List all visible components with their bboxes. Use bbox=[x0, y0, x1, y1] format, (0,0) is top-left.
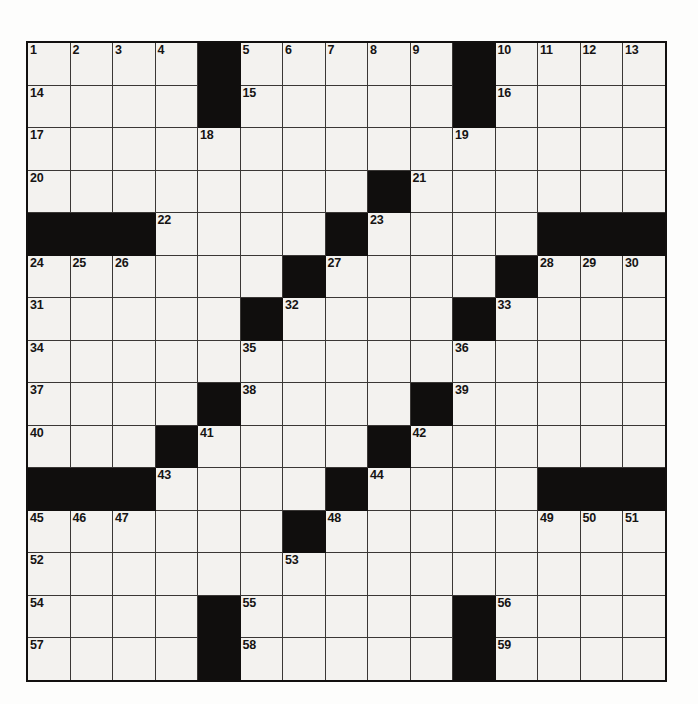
crossword-cell[interactable] bbox=[623, 170, 666, 213]
crossword-cell[interactable]: 10 bbox=[495, 42, 538, 85]
crossword-cell[interactable]: 38 bbox=[240, 383, 283, 426]
crossword-cell[interactable] bbox=[623, 425, 666, 468]
crossword-cell[interactable] bbox=[113, 553, 156, 596]
crossword-cell[interactable] bbox=[283, 213, 326, 256]
crossword-cell[interactable]: 57 bbox=[27, 638, 70, 681]
crossword-cell[interactable]: 31 bbox=[27, 298, 70, 341]
crossword-cell[interactable] bbox=[198, 468, 241, 511]
crossword-cell[interactable] bbox=[538, 595, 581, 638]
crossword-cell[interactable] bbox=[283, 595, 326, 638]
crossword-cell[interactable] bbox=[368, 85, 411, 128]
crossword-cell[interactable] bbox=[538, 383, 581, 426]
crossword-cell[interactable] bbox=[113, 128, 156, 171]
crossword-cell[interactable] bbox=[325, 298, 368, 341]
crossword-cell[interactable] bbox=[155, 553, 198, 596]
crossword-cell[interactable] bbox=[155, 510, 198, 553]
crossword-cell[interactable] bbox=[283, 468, 326, 511]
crossword-cell[interactable] bbox=[368, 298, 411, 341]
crossword-cell[interactable]: 23 bbox=[368, 213, 411, 256]
crossword-cell[interactable]: 58 bbox=[240, 638, 283, 681]
crossword-cell[interactable] bbox=[70, 595, 113, 638]
crossword-cell[interactable] bbox=[368, 553, 411, 596]
crossword-cell[interactable]: 49 bbox=[538, 510, 581, 553]
crossword-cell[interactable]: 53 bbox=[283, 553, 326, 596]
crossword-cell[interactable] bbox=[155, 595, 198, 638]
crossword-cell[interactable] bbox=[410, 468, 453, 511]
crossword-cell[interactable] bbox=[240, 213, 283, 256]
crossword-cell[interactable] bbox=[198, 298, 241, 341]
crossword-cell[interactable]: 41 bbox=[198, 425, 241, 468]
crossword-cell[interactable] bbox=[368, 595, 411, 638]
crossword-cell[interactable]: 29 bbox=[580, 255, 623, 298]
crossword-cell[interactable] bbox=[325, 85, 368, 128]
crossword-cell[interactable]: 8 bbox=[368, 42, 411, 85]
crossword-cell[interactable]: 46 bbox=[70, 510, 113, 553]
crossword-cell[interactable] bbox=[623, 638, 666, 681]
crossword-cell[interactable] bbox=[155, 85, 198, 128]
crossword-cell[interactable] bbox=[495, 510, 538, 553]
crossword-cell[interactable] bbox=[198, 255, 241, 298]
crossword-cell[interactable]: 55 bbox=[240, 595, 283, 638]
crossword-cell[interactable] bbox=[580, 340, 623, 383]
crossword-cell[interactable] bbox=[410, 298, 453, 341]
crossword-cell[interactable]: 19 bbox=[453, 128, 496, 171]
crossword-cell[interactable]: 25 bbox=[70, 255, 113, 298]
crossword-cell[interactable] bbox=[70, 383, 113, 426]
crossword-cell[interactable] bbox=[198, 553, 241, 596]
crossword-cell[interactable] bbox=[283, 340, 326, 383]
crossword-cell[interactable]: 6 bbox=[283, 42, 326, 85]
crossword-cell[interactable] bbox=[368, 340, 411, 383]
crossword-cell[interactable] bbox=[538, 128, 581, 171]
crossword-cell[interactable] bbox=[410, 255, 453, 298]
crossword-cell[interactable] bbox=[283, 85, 326, 128]
crossword-cell[interactable] bbox=[113, 425, 156, 468]
crossword-cell[interactable] bbox=[453, 553, 496, 596]
crossword-cell[interactable] bbox=[155, 255, 198, 298]
crossword-grid[interactable]: 1234567891011121314151617181920212223242… bbox=[26, 41, 667, 682]
crossword-cell[interactable] bbox=[155, 128, 198, 171]
crossword-cell[interactable] bbox=[325, 595, 368, 638]
crossword-cell[interactable] bbox=[283, 170, 326, 213]
crossword-cell[interactable]: 47 bbox=[113, 510, 156, 553]
crossword-cell[interactable] bbox=[410, 128, 453, 171]
crossword-cell[interactable]: 39 bbox=[453, 383, 496, 426]
crossword-cell[interactable]: 40 bbox=[27, 425, 70, 468]
crossword-cell[interactable]: 3 bbox=[113, 42, 156, 85]
crossword-cell[interactable]: 17 bbox=[27, 128, 70, 171]
crossword-cell[interactable] bbox=[538, 425, 581, 468]
crossword-cell[interactable] bbox=[495, 128, 538, 171]
crossword-cell[interactable] bbox=[580, 298, 623, 341]
crossword-cell[interactable]: 48 bbox=[325, 510, 368, 553]
crossword-cell[interactable]: 18 bbox=[198, 128, 241, 171]
crossword-cell[interactable]: 21 bbox=[410, 170, 453, 213]
crossword-cell[interactable]: 2 bbox=[70, 42, 113, 85]
crossword-cell[interactable] bbox=[580, 425, 623, 468]
crossword-cell[interactable]: 56 bbox=[495, 595, 538, 638]
crossword-cell[interactable] bbox=[113, 85, 156, 128]
crossword-cell[interactable] bbox=[453, 255, 496, 298]
crossword-cell[interactable] bbox=[70, 170, 113, 213]
crossword-cell[interactable] bbox=[368, 128, 411, 171]
crossword-cell[interactable] bbox=[538, 85, 581, 128]
crossword-cell[interactable] bbox=[410, 340, 453, 383]
crossword-cell[interactable] bbox=[283, 638, 326, 681]
crossword-cell[interactable] bbox=[495, 468, 538, 511]
crossword-cell[interactable] bbox=[580, 383, 623, 426]
crossword-cell[interactable]: 42 bbox=[410, 425, 453, 468]
crossword-cell[interactable] bbox=[495, 425, 538, 468]
crossword-cell[interactable] bbox=[368, 383, 411, 426]
crossword-cell[interactable]: 14 bbox=[27, 85, 70, 128]
crossword-cell[interactable]: 9 bbox=[410, 42, 453, 85]
crossword-cell[interactable] bbox=[580, 595, 623, 638]
crossword-cell[interactable]: 52 bbox=[27, 553, 70, 596]
crossword-cell[interactable] bbox=[325, 170, 368, 213]
crossword-cell[interactable] bbox=[325, 638, 368, 681]
crossword-cell[interactable] bbox=[368, 510, 411, 553]
crossword-cell[interactable] bbox=[113, 595, 156, 638]
crossword-cell[interactable] bbox=[155, 340, 198, 383]
crossword-cell[interactable] bbox=[240, 255, 283, 298]
crossword-cell[interactable] bbox=[113, 383, 156, 426]
crossword-cell[interactable] bbox=[283, 425, 326, 468]
crossword-cell[interactable]: 5 bbox=[240, 42, 283, 85]
crossword-cell[interactable] bbox=[283, 128, 326, 171]
